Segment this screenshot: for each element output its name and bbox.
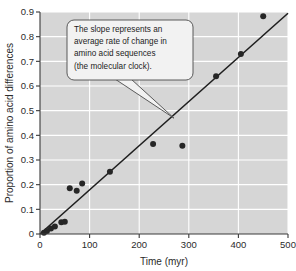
y-tick-label: 0.2 [21,179,34,190]
data-point [62,219,68,225]
x-tick-label: 200 [131,239,147,250]
data-point [67,185,73,191]
callout-line: amino acid sequences [74,49,155,58]
data-point [179,143,185,149]
molecular-clock-scatter-figure: 00.10.20.30.40.50.60.70.80.9 01002003004… [0,0,296,271]
data-point [260,13,266,19]
y-tick-label: 0 [29,228,34,239]
y-tick-label: 0.7 [21,56,34,67]
data-point [52,224,58,230]
y-tick-label: 0.9 [21,6,34,17]
y-tick-label: 0.6 [21,80,34,91]
callout-line: average rate of change in [74,37,167,46]
y-axis-title: Proportion of amino acid differences [4,43,15,203]
y-axis-ticks: 00.10.20.30.40.50.60.70.80.9 [21,6,40,239]
y-tick-label: 0.4 [21,130,34,141]
x-tick-label: 400 [230,239,246,250]
y-tick-label: 0.5 [21,105,34,116]
callout-line: (the molecular clock). [74,62,152,71]
x-axis-title: Time (myr) [140,256,188,267]
chart-canvas: 00.10.20.30.40.50.60.70.80.9 01002003004… [0,0,296,271]
x-axis-ticks: 0100200300400500 [37,234,296,250]
data-point [213,73,219,79]
data-point [238,51,244,57]
y-tick-label: 0.3 [21,154,34,165]
y-tick-label: 0.1 [21,204,34,215]
callout-line: The slope represents an [74,25,163,34]
data-point [79,180,85,186]
data-point [107,169,113,175]
data-point [74,188,80,194]
x-tick-label: 300 [181,239,197,250]
x-tick-label: 500 [280,239,296,250]
x-tick-label: 100 [82,239,98,250]
y-tick-label: 0.8 [21,31,34,42]
data-point [150,141,156,147]
x-tick-label: 0 [37,239,42,250]
